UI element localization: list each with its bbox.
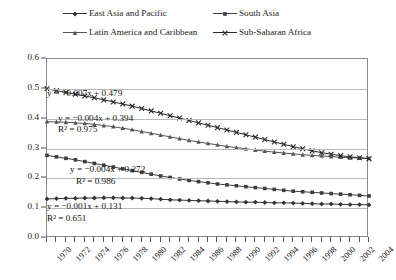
x-axis-tick [160, 237, 161, 242]
legend-label: South Asia [237, 9, 279, 18]
x-axis-tick [46, 237, 47, 242]
x-axis-tick [264, 237, 265, 242]
x-axis-tick-label: 1986 [207, 245, 225, 263]
x-axis-tick [131, 237, 132, 242]
x-axis-tick [65, 237, 66, 242]
x-axis-tick [122, 237, 123, 242]
x-axis-tick-label: 1998 [320, 245, 338, 263]
x-axis-tick-label: 1988 [226, 245, 244, 263]
legend-row-2: Latin America and Caribbean Sub-Saharan … [0, 23, 386, 42]
x-axis-tick-label: 1974 [93, 245, 111, 263]
x-axis-tick-label: 2002 [358, 245, 376, 263]
x-axis-tick-label: 1980 [150, 245, 168, 263]
x-axis-tick-label: 1976 [112, 245, 130, 263]
annotation-south-asia-equation: y = −0.004x + 0.272 [70, 164, 145, 176]
legend-item-east-asia-and-pacific[interactable]: East Asia and Pacific [63, 9, 213, 19]
y-axis-tick-label: 0.0 [28, 232, 39, 241]
x-axis-tick [55, 237, 56, 242]
legend-item-sub-saharan-africa[interactable]: Sub-Saharan Africa [213, 28, 323, 38]
x-axis-tick [207, 237, 208, 242]
x-axis-tick [292, 237, 293, 242]
diamond-marker-icon [63, 9, 87, 19]
x-axis-tick [359, 237, 360, 242]
x-axis-tick [169, 237, 170, 242]
x-axis-tick-label: 1990 [244, 245, 262, 263]
x-axis-tick [74, 237, 75, 242]
chart-legend: East Asia and Pacific South Asia Latin A… [0, 4, 386, 44]
x-axis-tick-label: 1992 [263, 245, 281, 263]
annotation-latin-america-r2: R² = 0.975 [58, 124, 97, 136]
legend-item-south-asia[interactable]: South Asia [213, 9, 323, 19]
x-axis-tick-label: 2004 [377, 245, 395, 263]
x-axis-tick [112, 237, 113, 242]
x-axis-tick [93, 237, 94, 242]
x-axis-tick-label: 2000 [339, 245, 357, 263]
y-axis-tick-label: 0.4 [28, 113, 39, 122]
x-axis-tick-label: 1978 [131, 245, 149, 263]
gridline [47, 149, 367, 150]
legend-label: Sub-Saharan Africa [237, 28, 311, 37]
x-axis-tick [84, 237, 85, 242]
x-axis-tick [179, 237, 180, 242]
x-axis-tick [141, 237, 142, 242]
y-axis-tick-label: 0.6 [28, 53, 39, 62]
x-axis-tick [188, 237, 189, 242]
annotation-east-asia-equation: y = −0.001x + 0.131 [47, 201, 122, 213]
legend-label: Latin America and Caribbean [87, 28, 197, 37]
x-axis-tick [245, 237, 246, 242]
legend-row-1: East Asia and Pacific South Asia [0, 4, 386, 23]
y-axis-tick-label: 0.2 [28, 173, 39, 182]
y-axis: 0.00.10.20.30.40.50.6 [0, 58, 46, 237]
annotation-latin-america-equation: y = −0.004x + 0.394 [58, 113, 133, 125]
x-axis-tick [226, 237, 227, 242]
y-axis-tick-label: 0.1 [28, 203, 39, 212]
cross-marker-icon [213, 28, 237, 38]
x-axis-tick [235, 237, 236, 242]
x-axis-tick [330, 237, 331, 242]
x-axis-labels: 1970197219741976197819801982198419861988… [0, 243, 386, 280]
x-axis-tick [302, 237, 303, 242]
x-axis-tick [283, 237, 284, 242]
x-axis-tick [340, 237, 341, 242]
x-axis-tick-label: 1972 [74, 245, 92, 263]
annotation-east-asia-r2: R² = 0.651 [47, 213, 86, 225]
x-axis-tick-label: 1996 [301, 245, 319, 263]
x-axis-tick [150, 237, 151, 242]
y-axis-tick-label: 0.5 [28, 83, 39, 92]
legend-label: East Asia and Pacific [87, 9, 167, 18]
triangle-marker-icon [63, 28, 87, 38]
annotation-south-asia-r2: R² = 0.986 [76, 176, 115, 188]
x-axis-tick [349, 237, 350, 242]
x-axis-tick [311, 237, 312, 242]
x-axis-tick [368, 237, 369, 242]
x-axis-tick [198, 237, 199, 242]
x-axis-tick [216, 237, 217, 242]
legend-item-latin-america-and-caribbean[interactable]: Latin America and Caribbean [63, 28, 213, 38]
x-axis-tick-label: 1982 [169, 245, 187, 263]
y-axis-tick-label: 0.3 [28, 143, 39, 152]
x-axis-tick-label: 1994 [282, 245, 300, 263]
x-axis-tick-label: 1970 [55, 245, 73, 263]
x-axis-tick [254, 237, 255, 242]
x-axis-tick-label: 1984 [188, 245, 206, 263]
square-marker-icon [213, 9, 237, 19]
annotation-sub-saharan-africa-equation: y = −0.007x + 0.479 [47, 88, 122, 100]
x-axis-tick [273, 237, 274, 242]
x-axis-tick [321, 237, 322, 242]
x-axis-tick [103, 237, 104, 242]
